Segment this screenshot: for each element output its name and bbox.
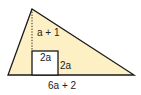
diagram: a + 1 2a 2a 6a + 2 — [0, 0, 141, 95]
label-height: a + 1 — [37, 27, 60, 38]
label-square-top: 2a — [40, 52, 52, 63]
label-square-side: 2a — [60, 60, 72, 71]
label-base: 6a + 2 — [48, 80, 77, 91]
